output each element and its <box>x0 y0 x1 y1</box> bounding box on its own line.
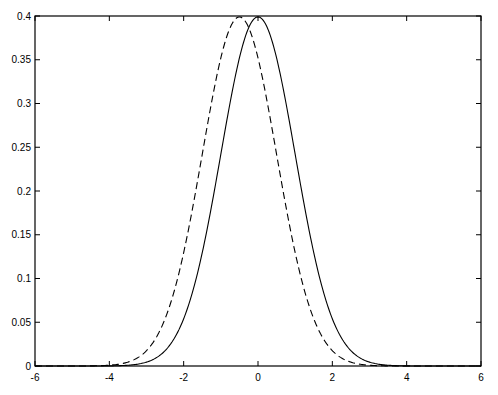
y-tick-label: 0.3 <box>17 98 31 109</box>
series-lines <box>35 17 481 366</box>
x-tick-label: -2 <box>179 372 188 383</box>
chart: -6-4-2024600.050.10.150.20.250.30.350.4 <box>0 0 498 395</box>
series-solid <box>35 17 481 366</box>
x-tick-label: 6 <box>478 372 484 383</box>
y-tick-label: 0.35 <box>12 54 32 65</box>
y-tick-label: 0.2 <box>17 186 31 197</box>
x-tick-label: -4 <box>105 372 114 383</box>
y-tick-label: 0.15 <box>12 229 32 240</box>
y-tick-label: 0.1 <box>17 273 31 284</box>
y-tick-label: 0.25 <box>12 142 32 153</box>
series-dashed <box>35 17 481 366</box>
y-tick-label: 0 <box>25 361 31 372</box>
x-tick-label: -6 <box>31 372 40 383</box>
x-tick-label: 0 <box>255 372 261 383</box>
plot-frame <box>35 16 481 366</box>
axes-frame <box>35 16 481 366</box>
y-tick-label: 0.4 <box>17 11 31 22</box>
ticks: -6-4-2024600.050.10.150.20.250.30.350.4 <box>12 11 485 384</box>
y-tick-label: 0.05 <box>12 317 32 328</box>
x-tick-label: 4 <box>404 372 410 383</box>
x-tick-label: 2 <box>330 372 336 383</box>
